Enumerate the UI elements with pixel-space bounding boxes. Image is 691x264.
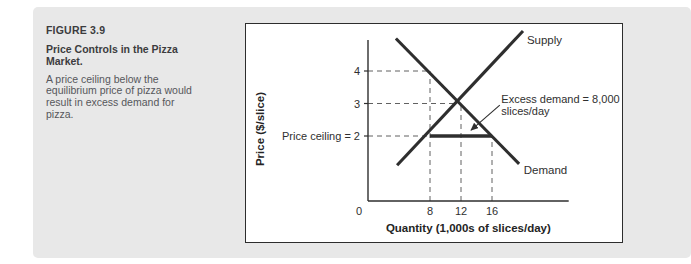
figure-title: Price Controls in the Pizza Market. <box>46 44 188 68</box>
x-tick-label: 8 <box>427 205 433 217</box>
y-tick-label: 3 <box>354 98 360 110</box>
excess-demand-annotation: Excess demand = 8,000slices/day <box>501 93 619 118</box>
demand-label: Demand <box>524 164 567 176</box>
y-axis-title: Price ($/slice) <box>254 92 266 166</box>
y-tick-label: 4 <box>354 65 360 77</box>
figure-caption: FIGURE 3.9 Price Controls in the Pizza M… <box>46 24 216 121</box>
figure-label: FIGURE 3.9 <box>46 24 216 36</box>
chart-panel: 43Price ceiling = 2812160SupplyDemandExc… <box>245 23 623 243</box>
figure-panel: FIGURE 3.9 Price Controls in the Pizza M… <box>33 7 691 258</box>
figure-description: A price ceiling below the equilibrium pr… <box>46 74 200 121</box>
origin-label: 0 <box>356 205 362 217</box>
price-ceiling-label: Price ceiling = 2 <box>282 130 360 142</box>
x-axis-title: Quantity (1,000s of slices/day) <box>386 222 551 234</box>
x-tick-label: 16 <box>486 205 498 217</box>
supply-demand-chart: 43Price ceiling = 2812160SupplyDemandExc… <box>246 24 621 241</box>
x-tick-label: 12 <box>455 205 467 217</box>
supply-label: Supply <box>527 34 562 46</box>
